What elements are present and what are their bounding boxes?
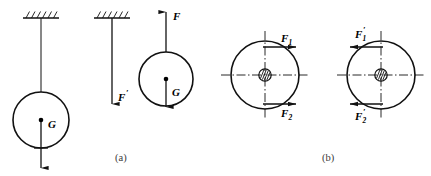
- weight-label-G: G: [48, 118, 56, 130]
- ceiling-support-hatch-2: [94, 12, 130, 19]
- force-label-F: F: [172, 10, 181, 22]
- caption-b: (b): [322, 152, 335, 164]
- subfigure-ball-on-string: G: [13, 12, 69, 169]
- subfigure-wheel-couple-left: F 1 F 2: [221, 31, 309, 122]
- physics-figure: G F ′ F G: [0, 0, 431, 176]
- subfigure-string-reaction: F ′: [94, 12, 130, 105]
- force-label-F2-prime-sub: 2: [362, 116, 367, 125]
- subfigure-free-ball: F G: [139, 10, 193, 107]
- ceiling-support-hatch-1: [23, 12, 59, 19]
- force-label-F1-sub: 1: [289, 38, 293, 47]
- weight-label-G-3: G: [172, 86, 180, 98]
- caption-a: (a): [115, 152, 127, 164]
- force-label-F1-prime-sub: 1: [363, 34, 367, 43]
- force-label-F2-sub: 2: [288, 113, 293, 122]
- force-label-F-prime: F: [117, 91, 126, 103]
- center-point-dot-1: [39, 118, 44, 123]
- subfigure-wheel-couple-right: F 1 ′ F 2 ′: [337, 25, 425, 125]
- figure-canvas: G F ′ F G: [0, 0, 431, 176]
- center-point-dot-3: [164, 77, 169, 82]
- force-label-F-prime-mark: ′: [126, 88, 129, 98]
